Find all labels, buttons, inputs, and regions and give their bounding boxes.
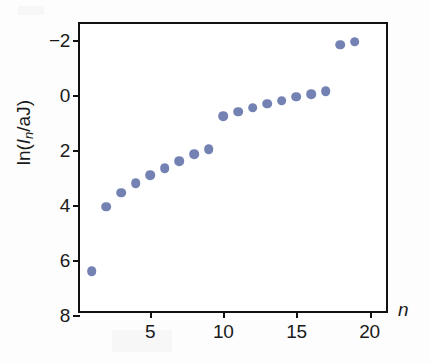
data-point (321, 86, 331, 96)
y-tick-label: 2 (60, 141, 70, 160)
data-point (160, 163, 170, 173)
data-point (335, 40, 345, 50)
data-point (116, 188, 126, 198)
data-point (189, 150, 199, 160)
data-point (87, 266, 97, 276)
y-tick-label: 4 (60, 196, 70, 215)
y-tick-mark (73, 315, 80, 317)
figure-canvas: ln(In/aJ) n 86420−2 5101520 (0, 0, 430, 363)
scan-artifact (112, 330, 172, 352)
data-point (292, 92, 302, 102)
data-point (102, 202, 112, 212)
x-axis-label: n (398, 300, 409, 319)
y-tick-mark (73, 205, 80, 207)
y-tick-mark (73, 260, 80, 262)
scan-artifact (18, 6, 44, 15)
x-tick-label: 5 (145, 322, 155, 341)
y-tick-label: 0 (60, 86, 70, 105)
data-point (277, 96, 287, 106)
y-axis-label-suffix: /aJ) (13, 100, 34, 132)
data-point (204, 144, 214, 154)
y-tick-label: −2 (49, 31, 70, 50)
data-point (145, 170, 155, 180)
x-tick-label: 15 (286, 322, 307, 341)
data-point (131, 178, 141, 188)
x-tick-mark (370, 311, 372, 318)
y-tick-label: 6 (60, 251, 70, 270)
data-point (219, 111, 229, 121)
plot-area: 86420−2 5101520 (78, 22, 388, 313)
data-point (248, 103, 258, 113)
x-tick-label: 10 (213, 322, 234, 341)
x-tick-mark (223, 311, 225, 318)
y-tick-mark (73, 40, 80, 42)
y-axis-label-prefix: ln( (13, 144, 34, 165)
data-point (175, 156, 185, 166)
x-tick-label: 20 (359, 322, 380, 341)
y-axis-label: ln(In/aJ) (14, 100, 35, 165)
x-tick-mark (150, 311, 152, 318)
y-axis-label-subscript: n (21, 132, 36, 139)
y-tick-label: 8 (60, 306, 70, 325)
y-axis-label-variable: I (13, 139, 34, 144)
data-point (306, 89, 316, 99)
data-point (350, 37, 360, 47)
data-point (262, 99, 272, 109)
x-tick-mark (296, 311, 298, 318)
y-tick-mark (73, 150, 80, 152)
data-point (233, 107, 243, 117)
y-tick-mark (73, 95, 80, 97)
